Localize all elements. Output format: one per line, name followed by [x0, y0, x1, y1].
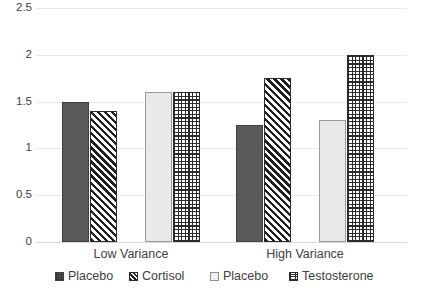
legend-item-placebo-2[interactable]: Placebo	[210, 270, 268, 283]
legend-label: Testosterone	[302, 270, 374, 283]
grid-crosshatch-swatch	[289, 272, 298, 281]
bar-high-variance-testosterone-3	[347, 55, 374, 242]
legend-label: Placebo	[68, 270, 113, 283]
y-axis-tick-label: 2	[0, 49, 32, 61]
bar-low-variance-cortisol-1	[90, 111, 117, 242]
legend-label: Cortisol	[142, 270, 184, 283]
gridline	[36, 242, 407, 243]
bar-high-variance-placebo-0	[236, 125, 263, 242]
diagonal-hatch-swatch	[129, 272, 138, 281]
legend-item-testosterone-3[interactable]: Testosterone	[289, 270, 374, 283]
bar-low-variance-placebo-0	[62, 102, 89, 242]
legend-label: Placebo	[223, 270, 268, 283]
legend-item-cortisol-1[interactable]: Cortisol	[129, 270, 184, 283]
legend-item-placebo-0[interactable]: Placebo	[55, 270, 113, 283]
y-axis-tick-label: 1.5	[0, 96, 32, 108]
y-axis-tick-label: 2.5	[0, 2, 32, 14]
bars-layer	[36, 8, 407, 242]
chart-legend: PlaceboCortisolPlaceboTestosterone	[0, 270, 438, 292]
y-axis-tick-label: 0	[0, 236, 32, 248]
bar-chart: 2.521.510.50 Low VarianceHigh Variance P…	[0, 0, 438, 300]
category-label-low-variance: Low Variance	[61, 248, 201, 261]
solid-dark-gray-swatch	[55, 272, 64, 281]
bar-low-variance-testosterone-3	[173, 92, 200, 242]
y-axis-tick-label: 1	[0, 143, 32, 155]
solid-light-gray-swatch	[210, 272, 219, 281]
bar-low-variance-placebo-2	[145, 92, 172, 242]
plot-area	[36, 8, 407, 242]
bar-high-variance-placebo-2	[319, 120, 346, 242]
category-label-high-variance: High Variance	[235, 248, 375, 261]
y-axis-tick-label: 0.5	[0, 189, 32, 201]
bar-high-variance-cortisol-1	[264, 78, 291, 242]
